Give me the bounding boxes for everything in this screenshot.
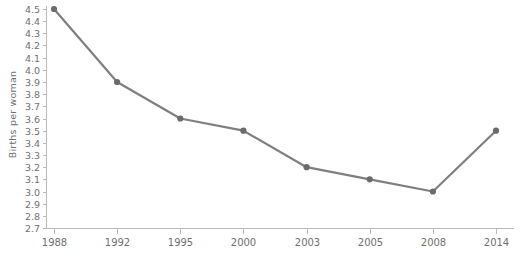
y-tick-label: 3.2 [25, 162, 40, 173]
line-chart: Births per woman 4.54.44.34.24.14.03.93.… [0, 0, 520, 262]
data-point-marker [177, 115, 183, 121]
data-point-marker [304, 164, 310, 170]
y-tick-label: 4.0 [25, 65, 40, 76]
y-tick-label: 2.9 [25, 199, 40, 210]
data-point-marker [114, 79, 120, 85]
x-tick-label: 1992 [105, 237, 130, 248]
data-point-marker [51, 6, 57, 12]
x-tick-label: 2005 [358, 237, 383, 248]
y-tick-label: 3.0 [25, 187, 40, 198]
chart-plot-area: 4.54.44.34.24.14.03.93.83.73.63.53.43.33… [0, 0, 520, 262]
y-tick-label: 3.5 [25, 126, 40, 137]
y-tick-label: 3.8 [25, 89, 40, 100]
x-tick-label: 2014 [484, 237, 509, 248]
y-tick-label: 3.9 [25, 77, 40, 88]
x-tick-label: 2000 [231, 237, 256, 248]
axis-lines [47, 6, 515, 229]
y-tick-label: 3.1 [25, 174, 40, 185]
data-series-line [54, 9, 496, 192]
y-tick-label: 3.3 [25, 150, 40, 161]
y-axis-ticks: 4.54.44.34.24.14.03.93.83.73.63.53.43.33… [25, 4, 47, 234]
data-point-marker [430, 188, 436, 194]
x-tick-label: 2008 [421, 237, 446, 248]
y-tick-label: 4.4 [25, 16, 40, 27]
data-point-marker [367, 176, 373, 182]
y-tick-label: 2.8 [25, 211, 40, 222]
y-tick-label: 3.4 [25, 138, 40, 149]
x-tick-label: 2003 [295, 237, 320, 248]
data-series-markers [51, 6, 499, 195]
y-tick-label: 4.2 [25, 40, 40, 51]
y-tick-label: 4.1 [25, 53, 40, 64]
data-point-marker [240, 128, 246, 134]
x-axis-ticks: 19881992199520002003200520082014 [42, 229, 509, 249]
y-tick-label: 4.5 [25, 4, 40, 15]
y-tick-label: 3.6 [25, 114, 40, 125]
x-tick-label: 1988 [42, 237, 67, 248]
y-tick-label: 3.7 [25, 101, 40, 112]
data-point-marker [493, 128, 499, 134]
y-tick-label: 2.7 [25, 223, 40, 234]
y-tick-label: 4.3 [25, 28, 40, 39]
x-tick-label: 1995 [168, 237, 193, 248]
